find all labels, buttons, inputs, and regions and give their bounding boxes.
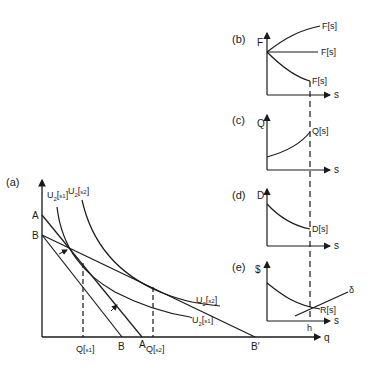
curve-label-u-s2: U2[s2] — [68, 186, 89, 198]
panel-c-label: (c) — [232, 114, 245, 126]
point-a-label: A — [32, 210, 39, 221]
panel-d: (d) D s D[s] — [232, 189, 339, 251]
r-curve-label: R[s] — [320, 305, 336, 315]
panel-d-label: (d) — [232, 189, 245, 201]
q-curve — [267, 132, 310, 157]
panel-d-y-label: D — [257, 190, 264, 201]
indifference-curve-s2 — [82, 200, 220, 306]
q-s1-label: Q[s1] — [76, 344, 94, 354]
panel-a: (a) q A B U2[s1] U2[s2] U2[s1] U2[s2] B … — [6, 176, 330, 354]
panel-a-label: (a) — [6, 176, 19, 188]
shift-arrow — [111, 305, 117, 311]
panel-e-y-label: $ — [255, 264, 261, 275]
rotation-arrow — [59, 250, 67, 254]
point-b-label: B — [32, 230, 39, 241]
panel-e-label: (e) — [232, 261, 245, 273]
delta-label: δ — [349, 285, 354, 295]
d-curve — [267, 204, 310, 229]
f-curve-decreasing — [267, 52, 310, 81]
q-s2-label: Q[s2] — [146, 344, 164, 354]
x-point-b-label: B — [118, 341, 125, 352]
panel-c-x-label: s — [334, 164, 339, 175]
panel-e: (e) $ s δ R[s] h — [232, 261, 354, 333]
indifference-curve-s1 — [57, 207, 190, 317]
f-curve-increasing — [267, 26, 320, 52]
x-axis-label: q — [324, 332, 330, 343]
panel-c-y-label: Q — [257, 118, 265, 129]
x-point-b-prime-label: B′ — [251, 341, 260, 352]
budget-line-b — [42, 235, 122, 337]
curve-label-u-s1: U2[s1] — [47, 190, 68, 202]
economic-diagram: (a) q A B U2[s1] U2[s2] U2[s1] U2[s2] B … — [0, 0, 371, 375]
f-label-mid: F[s] — [321, 47, 336, 57]
panel-b: (b) F s F[s] F[s] F[s] — [232, 21, 339, 100]
panel-e-x-label: s — [334, 315, 339, 326]
curve-end-label-u-s1: U2[s1] — [192, 315, 213, 327]
q-curve-label: Q[s] — [312, 126, 329, 136]
panel-b-y-label: F — [257, 37, 263, 48]
r-curve — [267, 283, 320, 309]
f-label-bottom: F[s] — [312, 76, 327, 86]
panel-b-x-label: s — [334, 89, 339, 100]
panel-d-x-label: s — [334, 240, 339, 251]
h-tick-label: h — [307, 323, 312, 333]
f-label-top: F[s] — [322, 21, 337, 31]
panel-c: (c) Q s Q[s] — [232, 114, 339, 175]
d-curve-label: D[s] — [312, 224, 328, 234]
panel-b-label: (b) — [232, 33, 245, 45]
x-point-a-label: A — [139, 339, 146, 350]
